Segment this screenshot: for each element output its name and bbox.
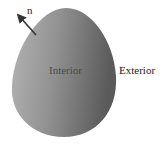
interior-label: Interior [49, 64, 82, 76]
normal-vector-label: n [27, 4, 33, 16]
exterior-label: Exterior [119, 64, 155, 76]
diagram: n Interior Exterior [0, 0, 168, 146]
normal-vector-arrow [20, 17, 36, 35]
